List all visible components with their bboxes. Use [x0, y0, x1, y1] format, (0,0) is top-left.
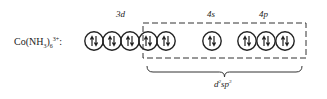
- spin-up-arrow-icon: [144, 37, 147, 47]
- orbital-diagram: [0, 0, 327, 99]
- hybrid-label: d2sp3: [214, 79, 232, 89]
- spin-down-arrow-icon: [166, 36, 169, 46]
- orbital-boxes: [85, 32, 294, 50]
- spin-down-arrow-icon: [266, 36, 269, 46]
- spin-down-arrow-icon: [247, 36, 250, 46]
- spin-down-arrow-icon: [285, 36, 288, 46]
- orbital-3d: [157, 32, 175, 50]
- orbital-3d: [139, 32, 157, 50]
- spin-up-arrow-icon: [281, 37, 284, 47]
- spin-up-arrow-icon: [243, 37, 246, 47]
- spin-down-arrow-icon: [130, 36, 133, 46]
- brace: [147, 66, 302, 77]
- orbital-4p: [257, 32, 275, 50]
- orbital-3d: [103, 32, 121, 50]
- spin-up-arrow-icon: [126, 37, 129, 47]
- orbital-3d: [85, 32, 103, 50]
- hybrid-sup2: 3: [229, 79, 232, 84]
- spin-up-arrow-icon: [162, 37, 165, 47]
- orbital-4p: [276, 32, 294, 50]
- spin-down-arrow-icon: [94, 36, 97, 46]
- spin-up-arrow-icon: [208, 37, 211, 47]
- spin-up-arrow-icon: [262, 37, 265, 47]
- spin-down-arrow-icon: [212, 36, 215, 46]
- orbital-4s: [203, 32, 221, 50]
- hybrid-sp: sp: [221, 79, 229, 89]
- orbital-3d: [121, 32, 139, 50]
- spin-down-arrow-icon: [112, 36, 115, 46]
- orbital-4p: [238, 32, 256, 50]
- spin-down-arrow-icon: [148, 36, 151, 46]
- spin-up-arrow-icon: [90, 37, 93, 47]
- spin-up-arrow-icon: [108, 37, 111, 47]
